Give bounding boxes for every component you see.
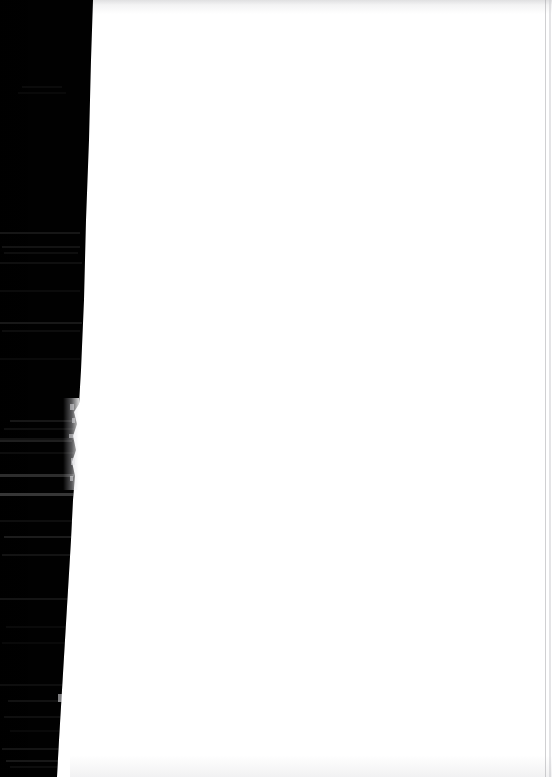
ink-trace-line bbox=[10, 420, 72, 422]
ink-trace-line bbox=[0, 438, 76, 440]
right-scan-edge-rule-secondary bbox=[549, 0, 551, 777]
ink-trace-line bbox=[4, 428, 74, 430]
horizontal-rule-trace bbox=[0, 440, 72, 442]
ink-trace-line bbox=[10, 730, 60, 732]
right-scan-edge-rule bbox=[545, 0, 546, 777]
ink-trace-line bbox=[0, 232, 80, 234]
ink-trace-line bbox=[2, 554, 72, 556]
ink-trace-line bbox=[0, 598, 72, 600]
ink-trace-line bbox=[0, 452, 74, 454]
ink-trace-line bbox=[4, 536, 72, 538]
ink-trace-line bbox=[0, 262, 82, 264]
ink-trace-line bbox=[2, 748, 62, 750]
ink-trace-line bbox=[4, 716, 64, 718]
ink-trace-line bbox=[6, 626, 68, 628]
scanned-page-canvas bbox=[0, 0, 552, 777]
ink-trace-line bbox=[0, 290, 80, 292]
ink-trace-line bbox=[22, 86, 62, 88]
ink-trace-line bbox=[2, 642, 68, 644]
ink-trace-line bbox=[10, 766, 58, 768]
ink-trace-line bbox=[8, 700, 64, 702]
ink-trace-line bbox=[2, 246, 80, 248]
ink-trace-line bbox=[0, 520, 74, 522]
ink-trace-line bbox=[0, 358, 80, 360]
ink-trace-line bbox=[18, 92, 66, 94]
ink-trace-line bbox=[4, 252, 78, 254]
ink-trace-line bbox=[2, 330, 80, 332]
ink-trace-line bbox=[6, 760, 60, 762]
ink-trace-line bbox=[0, 322, 82, 324]
horizontal-rule-trace bbox=[0, 493, 74, 496]
horizontal-rule-trace bbox=[0, 474, 74, 477]
ink-trace-line bbox=[0, 684, 68, 686]
